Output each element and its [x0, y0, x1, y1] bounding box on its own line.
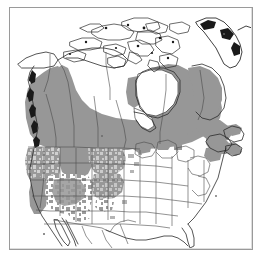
map-frame: [9, 7, 253, 250]
figure-root: [0, 0, 262, 263]
north-america-range-map: [10, 8, 253, 250]
